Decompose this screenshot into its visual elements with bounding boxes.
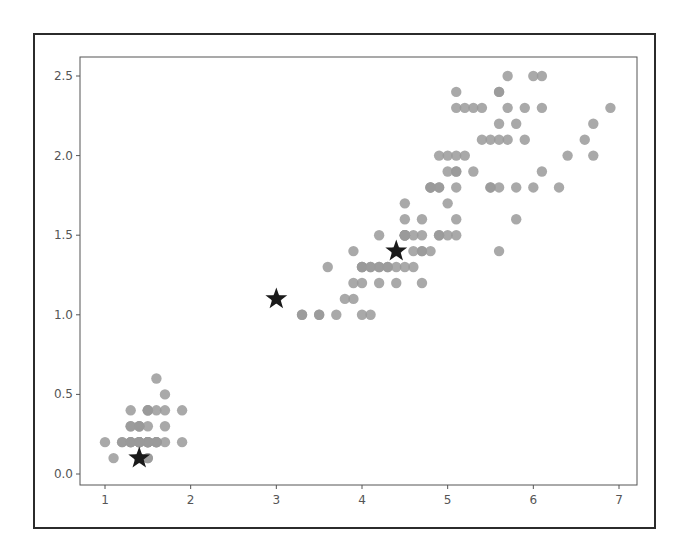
data-point (494, 246, 504, 256)
data-point (400, 198, 410, 208)
data-point (588, 119, 598, 129)
data-point (502, 71, 512, 81)
y-tick-label: 2.5 (54, 69, 73, 83)
data-point (442, 166, 452, 176)
data-point (408, 262, 418, 272)
data-point (485, 182, 495, 192)
data-point (348, 246, 358, 256)
data-point (537, 71, 547, 81)
data-point (554, 182, 564, 192)
x-tick-label: 7 (615, 493, 623, 507)
x-tick-label: 3 (273, 493, 281, 507)
data-point (511, 182, 521, 192)
data-point (511, 119, 521, 129)
data-point (502, 103, 512, 113)
data-point (314, 310, 324, 320)
star-markers (128, 240, 407, 468)
data-point (365, 262, 375, 272)
data-point (400, 230, 410, 240)
data-point (511, 214, 521, 224)
data-point (331, 310, 341, 320)
data-point (177, 405, 187, 415)
data-point (383, 262, 393, 272)
data-point (605, 103, 615, 113)
data-point (160, 389, 170, 399)
data-point (374, 278, 384, 288)
data-point (134, 437, 144, 447)
data-point (417, 230, 427, 240)
y-tick-label: 0.5 (54, 387, 73, 401)
data-point (108, 453, 118, 463)
x-tick-label: 1 (101, 493, 109, 507)
data-point (520, 103, 530, 113)
data-point (562, 150, 572, 160)
data-point (494, 119, 504, 129)
data-point (160, 421, 170, 431)
data-points (100, 71, 616, 463)
data-point (460, 150, 470, 160)
y-tick-label: 0.0 (54, 467, 73, 481)
data-point (374, 230, 384, 240)
data-point (417, 278, 427, 288)
data-point (460, 103, 470, 113)
plot-area (80, 57, 637, 485)
data-point (297, 310, 307, 320)
data-point (451, 87, 461, 97)
data-point (434, 150, 444, 160)
data-point (391, 278, 401, 288)
data-point (126, 405, 136, 415)
star-marker (265, 287, 287, 308)
data-point (400, 214, 410, 224)
x-tick-label: 5 (444, 493, 452, 507)
scatter-chart: 1234567 0.00.51.01.52.02.5 (0, 0, 683, 555)
data-point (323, 262, 333, 272)
y-axis: 0.00.51.01.52.02.5 (54, 69, 80, 481)
data-point (494, 134, 504, 144)
data-point (468, 166, 478, 176)
data-point (588, 150, 598, 160)
data-point (417, 214, 427, 224)
data-point (151, 373, 161, 383)
data-point (477, 103, 487, 113)
data-point (425, 246, 435, 256)
data-point (177, 437, 187, 447)
data-point (528, 182, 538, 192)
data-point (580, 134, 590, 144)
x-tick-label: 6 (530, 493, 538, 507)
star-marker (128, 447, 150, 468)
data-point (143, 405, 153, 415)
y-tick-label: 1.0 (54, 308, 73, 322)
x-tick-label: 4 (358, 493, 366, 507)
data-point (477, 134, 487, 144)
data-point (442, 198, 452, 208)
data-point (451, 214, 461, 224)
star-marker (385, 240, 407, 261)
data-point (357, 278, 367, 288)
data-point (451, 230, 461, 240)
data-point (494, 87, 504, 97)
data-point (537, 103, 547, 113)
data-point (520, 134, 530, 144)
data-point (425, 182, 435, 192)
data-point (537, 166, 547, 176)
data-point (340, 294, 350, 304)
x-tick-label: 2 (187, 493, 195, 507)
data-point (100, 437, 110, 447)
data-point (134, 421, 144, 431)
y-tick-label: 1.5 (54, 228, 73, 242)
x-axis: 1234567 (101, 485, 623, 507)
y-tick-label: 2.0 (54, 149, 73, 163)
data-point (451, 182, 461, 192)
data-point (365, 310, 375, 320)
data-point (408, 246, 418, 256)
